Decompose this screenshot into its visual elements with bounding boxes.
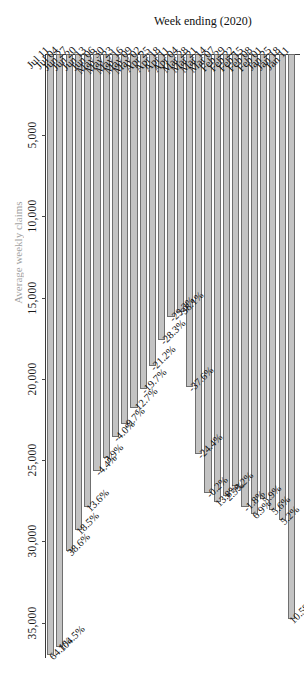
- bar: [195, 54, 202, 454]
- y-axis-tick-label: 10,000: [26, 200, 38, 233]
- y-axis-tick-label: 30,000: [26, 525, 38, 558]
- bar: [56, 54, 63, 647]
- y-axis-tick: [42, 623, 46, 624]
- bar: [130, 54, 137, 408]
- y-axis-tick: [42, 298, 46, 299]
- bar: [93, 54, 100, 471]
- bar: [269, 54, 276, 510]
- bar: [66, 54, 73, 551]
- chart-canvas: 35,00030,00025,00020,00015,00010,0005,00…: [0, 0, 304, 675]
- bar: [84, 54, 91, 507]
- y-axis-tick-label: 15,000: [26, 281, 38, 314]
- bar: [288, 54, 295, 619]
- y-axis-title: Average weekly claims: [12, 201, 24, 303]
- bar: [47, 54, 54, 655]
- y-axis-tick-label: 25,000: [26, 444, 38, 477]
- bar: [167, 54, 174, 317]
- x-axis-line: [45, 54, 46, 658]
- y-axis-tick: [42, 216, 46, 217]
- x-axis-title: Week ending (2020): [154, 14, 252, 29]
- bar: [103, 54, 110, 458]
- y-axis-tick: [42, 135, 46, 136]
- bar: [241, 54, 248, 507]
- bar: [149, 54, 156, 366]
- bar: [204, 54, 211, 493]
- y-axis-tick-label: 35,000: [26, 606, 38, 639]
- bar: [158, 54, 165, 340]
- bar: [251, 54, 258, 514]
- bar: [186, 54, 193, 387]
- bar: [121, 54, 128, 424]
- rotated-chart-frame: 35,00030,00025,00020,00015,00010,0005,00…: [0, 0, 304, 675]
- bar: [112, 54, 119, 437]
- y-axis-tick: [42, 541, 46, 542]
- bar: [75, 54, 82, 530]
- bar: [232, 54, 239, 486]
- bar: [223, 54, 230, 496]
- bar: [177, 54, 184, 312]
- y-axis-tick: [42, 460, 46, 461]
- bar: [260, 54, 267, 499]
- y-axis-tick: [42, 379, 46, 380]
- y-axis-tick-label: 5,000: [26, 122, 38, 149]
- bar: [279, 54, 286, 520]
- bar: [140, 54, 147, 389]
- y-axis-tick-label: 20,000: [26, 362, 38, 395]
